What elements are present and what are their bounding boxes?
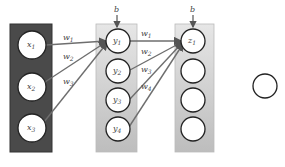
svg-text:w4: w4 bbox=[141, 82, 152, 92]
output-node bbox=[253, 74, 277, 98]
node-x1: x1 bbox=[18, 31, 46, 59]
node-z3 bbox=[181, 88, 205, 112]
node-y4: y4 bbox=[106, 117, 130, 141]
node-y2: y2 bbox=[106, 59, 130, 83]
svg-text:w3: w3 bbox=[141, 65, 152, 75]
node-x2: x2 bbox=[18, 73, 46, 101]
node-z4 bbox=[181, 117, 205, 141]
node-x3: x3 bbox=[18, 114, 46, 142]
bias-label-1: b bbox=[114, 5, 119, 14]
svg-text:w2: w2 bbox=[141, 47, 152, 57]
node-y3: y3 bbox=[106, 88, 130, 112]
input-nodes: x1 x2 x3 bbox=[18, 31, 46, 142]
svg-text:w1: w1 bbox=[141, 29, 152, 39]
node-z1: z1 bbox=[181, 29, 205, 53]
bias-label-2: b bbox=[190, 5, 195, 14]
node-z2 bbox=[181, 59, 205, 83]
weight-labels-layer-1: w1 w2 w3 bbox=[63, 33, 74, 87]
neural-network-diagram: b b w1 w2 w3 w1 w2 w3 w4 x1 x2 x3 y1 bbox=[0, 0, 285, 167]
svg-text:w3: w3 bbox=[63, 77, 74, 87]
svg-text:w2: w2 bbox=[63, 52, 74, 62]
node-y1: y1 bbox=[106, 29, 130, 53]
svg-text:w1: w1 bbox=[63, 33, 74, 43]
